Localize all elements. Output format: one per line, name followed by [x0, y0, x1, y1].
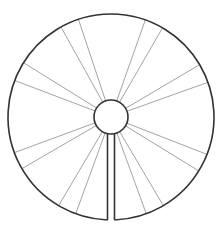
- spoke-line: [127, 82, 208, 111]
- spoke-line: [14, 123, 95, 153]
- spoke-line: [76, 133, 105, 214]
- spoke-line: [15, 81, 95, 111]
- radial-wheel-diagram: [0, 0, 222, 230]
- spoke-line: [61, 27, 103, 102]
- spoke-line: [120, 28, 163, 102]
- spoke-line: [127, 123, 207, 154]
- spoke-line: [22, 126, 96, 169]
- bottom-slit: [108, 134, 115, 220]
- spoke-line: [126, 65, 200, 109]
- spoke-line: [120, 132, 164, 206]
- spoke-line: [125, 126, 198, 171]
- spoke-line: [117, 133, 146, 214]
- spoke-line: [78, 19, 105, 101]
- spoke-line: [117, 20, 146, 101]
- spoke-line: [23, 63, 96, 108]
- spoke-line: [59, 132, 103, 206]
- inner-circle: [94, 100, 128, 134]
